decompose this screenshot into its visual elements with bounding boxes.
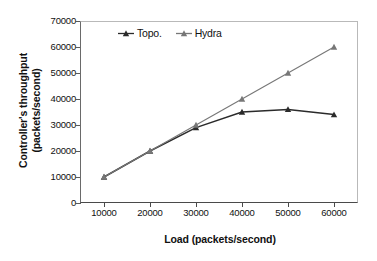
legend-marker-icon [118,28,135,39]
legend-item-topo[interactable]: Topo. [118,27,162,39]
plot-area [80,21,358,203]
legend-label: Topo. [137,27,162,39]
x-tick-mark [242,203,243,207]
legend-label: Hydra [195,27,222,39]
x-axis-title: Load (packets/second) [80,233,360,245]
x-tick-mark [334,203,335,207]
x-tick-mark [150,203,151,207]
chart-legend: Topo.Hydra [118,27,222,39]
legend-item-hydra[interactable]: Hydra [176,27,222,39]
x-tick-mark [196,203,197,207]
line-chart-figure: Controller's throughput (packets/second)… [0,0,377,261]
x-tick-mark [104,203,105,207]
x-tick-label: 60000 [306,207,362,218]
legend-marker-icon [176,28,193,39]
x-tick-mark [288,203,289,207]
